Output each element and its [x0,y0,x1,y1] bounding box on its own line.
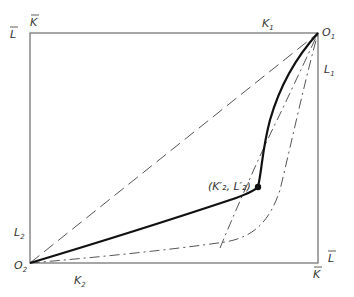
label-point: (K′₂, L′₂) [208,180,251,193]
label-bottom-right-l: L [328,252,334,265]
edgeworth-box-diagram: L K K1 O1 L1 L2 O2 K2 K L (K′₂, L′₂) [0,0,354,297]
dash-dot-line-upper [220,33,318,248]
label-o1: O1 [322,26,335,41]
label-k2: K2 [74,274,86,289]
label-o2: O2 [14,259,28,274]
label-top-left-k: K [30,16,38,29]
label-k1: K1 [262,17,274,32]
label-l2: L2 [14,226,25,241]
label-top-left-l: L [10,28,16,41]
diagonal-dashed-line [30,33,318,263]
label-bottom-right-k: K [313,268,321,281]
label-l1: L1 [324,63,335,78]
point-k2-l2 [255,184,261,190]
